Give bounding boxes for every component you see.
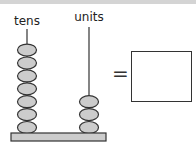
tens-bead [18,57,37,69]
tens-beads [18,44,37,133]
units-bead [80,109,99,121]
tens-bead [18,83,37,95]
units-bead [80,96,99,108]
units-bead [80,122,99,134]
tens-bead [18,109,37,121]
answer-box[interactable] [131,51,192,102]
tens-bead [18,96,37,108]
tens-bead [18,70,37,82]
tens-bead [18,122,37,134]
units-beads [80,96,99,134]
equals-sign: = [112,63,129,83]
tens-bead [18,44,37,56]
abacus-base [11,133,106,141]
